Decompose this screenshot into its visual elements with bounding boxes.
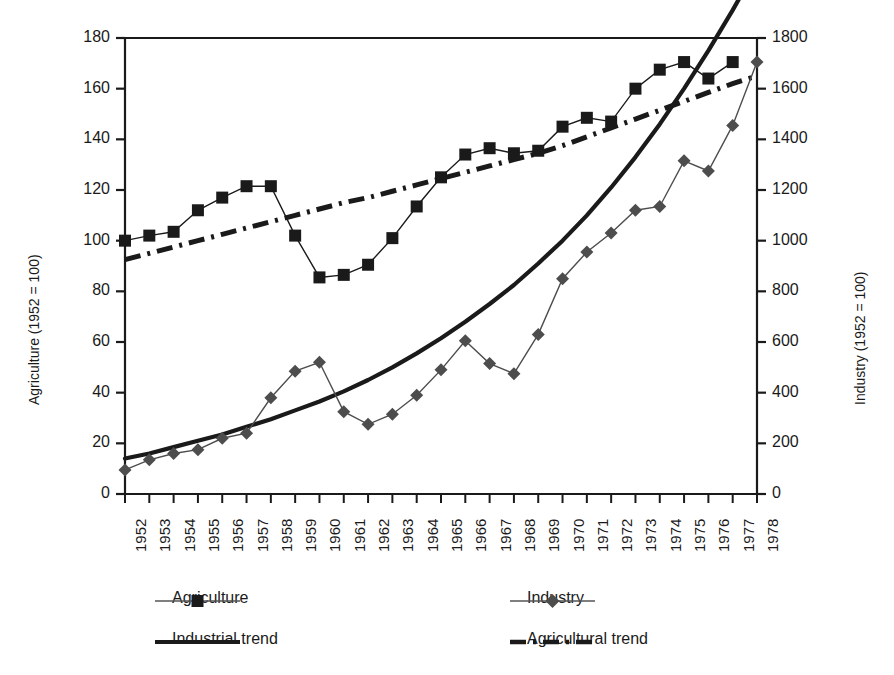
y-axis-left-tick: 80: [40, 281, 110, 299]
data-point-industry: [337, 405, 350, 418]
data-point-agriculture: [605, 116, 617, 128]
legend-swatch: [150, 630, 245, 654]
y-axis-right-tick: 600: [772, 332, 799, 350]
y-axis-left-tick: 180: [40, 28, 110, 46]
x-axis-tick-label: 1968: [521, 519, 538, 552]
legend-marker-square-icon: [192, 595, 204, 607]
x-axis-tick-label: 1969: [545, 519, 562, 552]
x-axis-tick-label: 1964: [424, 519, 441, 552]
x-axis-tick-label: 1963: [399, 519, 416, 552]
data-point-industry: [191, 443, 204, 456]
legend-item: Agriculture: [150, 589, 248, 607]
x-axis-tick-label: 1953: [156, 519, 173, 552]
data-point-agriculture: [435, 171, 447, 183]
x-axis-tick-label: 1955: [205, 519, 222, 552]
y-axis-right-tick: 0: [772, 484, 781, 502]
x-axis-tick-label: 1971: [594, 519, 611, 552]
x-axis-tick-label: 1961: [351, 519, 368, 552]
y-axis-right-tick: 1800: [772, 28, 808, 46]
data-point-agriculture: [241, 180, 253, 192]
x-axis-tick-label: 1974: [667, 519, 684, 552]
y-axis-left-tick: 40: [40, 383, 110, 401]
x-axis-tick-label: 1952: [132, 519, 149, 552]
legend-marker-diamond-icon: [546, 594, 560, 608]
data-point-agriculture: [508, 147, 520, 159]
x-axis-tick-label: 1970: [570, 519, 587, 552]
data-point-agriculture: [702, 73, 714, 85]
x-axis-tick-label: 1954: [181, 519, 198, 552]
x-axis-tick-label: 1973: [642, 519, 659, 552]
x-axis-tick-label: 1965: [448, 519, 465, 552]
y-axis-right-tick: 1600: [772, 79, 808, 97]
data-point-agriculture: [459, 149, 471, 161]
data-point-agriculture: [119, 235, 131, 247]
data-point-agriculture: [265, 180, 277, 192]
data-point-agriculture: [192, 204, 204, 216]
x-axis-tick-label: 1978: [764, 519, 781, 552]
data-point-industry: [726, 119, 739, 132]
chart-root: Agriculture (1952 = 100) Industry (1952 …: [0, 0, 894, 675]
y-axis-right-tick: 800: [772, 281, 799, 299]
legend-swatch: [505, 630, 600, 654]
x-axis-tick-label: 1967: [497, 519, 514, 552]
x-axis-tick-label: 1956: [229, 519, 246, 552]
data-point-industry: [313, 356, 326, 369]
data-point-industry: [362, 418, 375, 431]
data-point-agriculture: [484, 142, 496, 154]
y-axis-left-tick: 20: [40, 433, 110, 451]
y-axis-left-tick: 100: [40, 231, 110, 249]
data-point-industry: [702, 165, 715, 178]
data-point-agriculture: [362, 259, 374, 271]
data-point-industry: [507, 367, 520, 380]
data-point-agriculture: [386, 232, 398, 244]
x-axis-tick-label: 1962: [375, 519, 392, 552]
data-point-agriculture: [168, 226, 180, 238]
data-point-agriculture: [532, 145, 544, 157]
data-point-industry: [678, 154, 691, 167]
legend-swatch: [150, 589, 245, 613]
data-point-agriculture: [654, 64, 666, 76]
legend-item: Industrial trend: [150, 630, 278, 648]
legend-item: Agricultural trend: [505, 630, 648, 648]
data-point-industry: [751, 56, 764, 69]
data-point-industry: [119, 463, 132, 476]
data-point-agriculture: [581, 112, 593, 124]
x-axis-tick-label: 1972: [618, 519, 635, 552]
data-point-agriculture: [289, 230, 301, 242]
x-axis-tick-label: 1960: [326, 519, 343, 552]
data-point-industry: [653, 200, 666, 213]
y-axis-right-tick: 200: [772, 433, 799, 451]
data-point-agriculture: [216, 192, 228, 204]
series-line-agriculture: [125, 62, 733, 277]
legend-swatch: [505, 589, 600, 613]
legend-item: Industry: [505, 589, 584, 607]
y-axis-right-tick: 1200: [772, 180, 808, 198]
y-axis-left-tick: 160: [40, 79, 110, 97]
y-axis-right-tick: 1400: [772, 129, 808, 147]
x-axis-tick-label: 1975: [691, 519, 708, 552]
chart-canvas: [0, 0, 894, 675]
data-point-agriculture: [678, 56, 690, 68]
y-axis-left-tick: 140: [40, 129, 110, 147]
y-axis-left-tick: 120: [40, 180, 110, 198]
y-axis-left-tick: 0: [40, 484, 110, 502]
data-point-agriculture: [338, 269, 350, 281]
data-point-agriculture: [143, 230, 155, 242]
x-axis-tick-label: 1966: [472, 519, 489, 552]
x-axis-tick-label: 1958: [278, 519, 295, 552]
series-line-agricultural-trend: [125, 76, 757, 260]
x-axis-tick-label: 1977: [740, 519, 757, 552]
data-point-industry: [386, 408, 399, 421]
data-point-agriculture: [727, 56, 739, 68]
data-point-industry: [532, 328, 545, 341]
x-axis-tick-label: 1957: [254, 519, 271, 552]
data-point-agriculture: [629, 83, 641, 95]
x-axis-tick-label: 1976: [715, 519, 732, 552]
data-point-agriculture: [411, 200, 423, 212]
data-point-agriculture: [313, 271, 325, 283]
y-axis-right-tick: 400: [772, 383, 799, 401]
data-point-agriculture: [557, 121, 569, 133]
x-axis-tick-label: 1959: [302, 519, 319, 552]
y-axis-right-tick: 1000: [772, 231, 808, 249]
y-axis-left-tick: 60: [40, 332, 110, 350]
